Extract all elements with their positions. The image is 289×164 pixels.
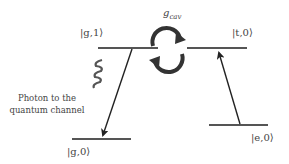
- photon-caption: Photon to the quantum channel: [4, 92, 90, 116]
- photon-wavy-icon: [94, 60, 102, 88]
- coupling-subscript: cav: [169, 13, 181, 21]
- excitation-arrow: [219, 53, 240, 124]
- coupling-arrowhead-top-icon: [175, 32, 186, 44]
- coupling-label: gcav: [163, 7, 181, 21]
- level-t0-label: |t,0⟩: [232, 27, 253, 38]
- level-g0-label: |g,0⟩: [67, 146, 90, 157]
- photon-caption-line2: quantum channel: [4, 104, 90, 116]
- decay-arrow: [103, 49, 132, 135]
- coupling-arrowhead-bottom-icon: [149, 56, 160, 68]
- level-e0-label: |e,0⟩: [251, 132, 274, 143]
- diagram-graphics: [0, 0, 289, 164]
- energy-level-diagram: |g,1⟩ |t,0⟩ |g,0⟩ |e,0⟩ gcav Photon to t…: [0, 0, 289, 164]
- level-g1-label: |g,1⟩: [80, 27, 103, 38]
- photon-caption-line1: Photon to the: [4, 92, 90, 104]
